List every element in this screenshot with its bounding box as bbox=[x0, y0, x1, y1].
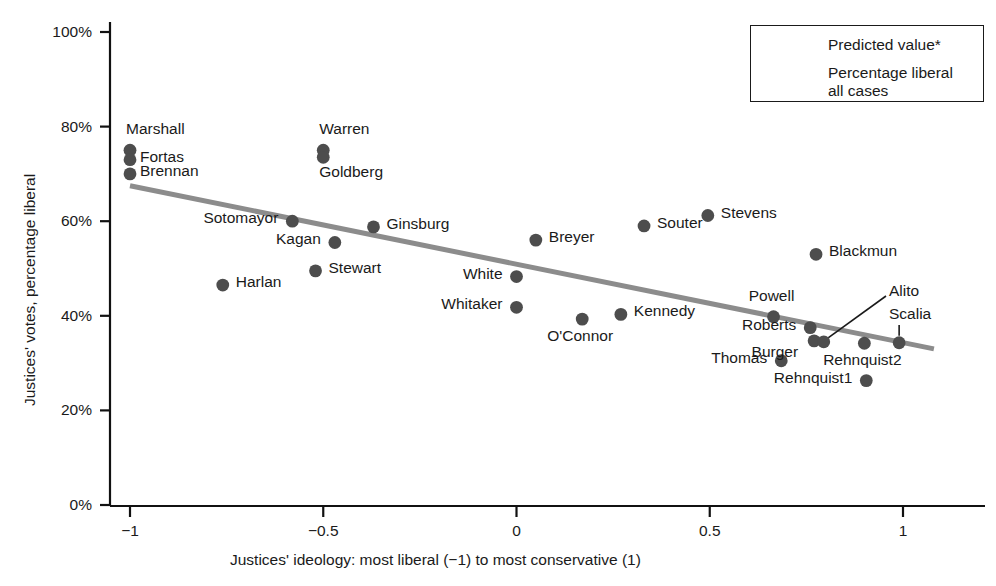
legend-label-predicted-value: Predicted value* bbox=[828, 35, 941, 54]
data-point-blackmun[interactable] bbox=[810, 248, 823, 261]
point-label-thomas: Thomas bbox=[0, 350, 767, 366]
data-point-rehnquist1[interactable] bbox=[860, 374, 873, 387]
data-point-goldberg[interactable] bbox=[317, 151, 330, 164]
data-point-alito[interactable] bbox=[817, 335, 830, 348]
data-point-whitaker[interactable] bbox=[510, 301, 523, 314]
x-tick-label-3: 0.5 bbox=[670, 523, 750, 539]
x-tick-label-0: −1 bbox=[90, 523, 170, 539]
legend-label-percentage-liberal-sub: all cases bbox=[828, 81, 888, 100]
point-label-white: White bbox=[0, 266, 503, 282]
y-tick-label-1: 20% bbox=[0, 402, 92, 418]
point-label-marshall: Marshall bbox=[126, 121, 185, 137]
x-tick-label-1: −0.5 bbox=[283, 523, 363, 539]
point-label-whitaker: Whitaker bbox=[0, 296, 503, 312]
data-point-ginsburg[interactable] bbox=[367, 220, 380, 233]
point-label-warren: Warren bbox=[319, 121, 369, 137]
scatter-plot-figure: Justices' votes, percentage liberal Just… bbox=[0, 0, 996, 586]
x-tick-label-2: 0 bbox=[477, 523, 557, 539]
point-label-goldberg: Goldberg bbox=[319, 164, 383, 180]
point-label-sotomayor: Sotomayor bbox=[0, 210, 278, 226]
y-tick-label-0: 0% bbox=[0, 497, 92, 513]
data-point-brennan[interactable] bbox=[124, 168, 137, 181]
point-label-rehnquist1: Rehnquist1 bbox=[0, 370, 852, 386]
data-point-fortas[interactable] bbox=[124, 153, 137, 166]
x-axis-title: Justices' ideology: most liberal (−1) to… bbox=[230, 552, 641, 568]
y-tick-label-4: 80% bbox=[0, 119, 92, 135]
point-label-roberts: Roberts bbox=[0, 317, 796, 333]
data-point-souter[interactable] bbox=[638, 220, 651, 233]
data-point-sotomayor[interactable] bbox=[286, 215, 299, 228]
data-point-stevens[interactable] bbox=[701, 209, 714, 222]
data-point-scalia[interactable] bbox=[893, 336, 906, 349]
data-point-rehnquist2[interactable] bbox=[858, 337, 871, 350]
legend-label-percentage-liberal: Percentage liberal bbox=[828, 63, 953, 82]
point-label-alito: Alito bbox=[889, 283, 919, 299]
point-label-blackmun: Blackmun bbox=[829, 243, 897, 259]
data-point-breyer[interactable] bbox=[529, 234, 542, 247]
data-point-white[interactable] bbox=[510, 270, 523, 283]
point-label-ginsburg: Ginsburg bbox=[386, 216, 449, 232]
point-label-stevens: Stevens bbox=[721, 205, 777, 221]
x-tick-label-4: 1 bbox=[863, 523, 943, 539]
data-point-kagan[interactable] bbox=[328, 236, 341, 249]
point-label-powell: Powell bbox=[692, 288, 852, 304]
y-tick-label-5: 100% bbox=[0, 24, 92, 40]
point-label-breyer: Breyer bbox=[549, 229, 595, 245]
point-label-brennan: Brennan bbox=[140, 163, 199, 179]
point-label-kagan: Kagan bbox=[0, 231, 321, 247]
data-point-roberts[interactable] bbox=[804, 321, 817, 334]
point-label-scalia: Scalia bbox=[889, 306, 931, 322]
point-label-rehnquist2: Rehnquist2 bbox=[782, 352, 942, 368]
point-label-souter: Souter bbox=[657, 215, 703, 231]
